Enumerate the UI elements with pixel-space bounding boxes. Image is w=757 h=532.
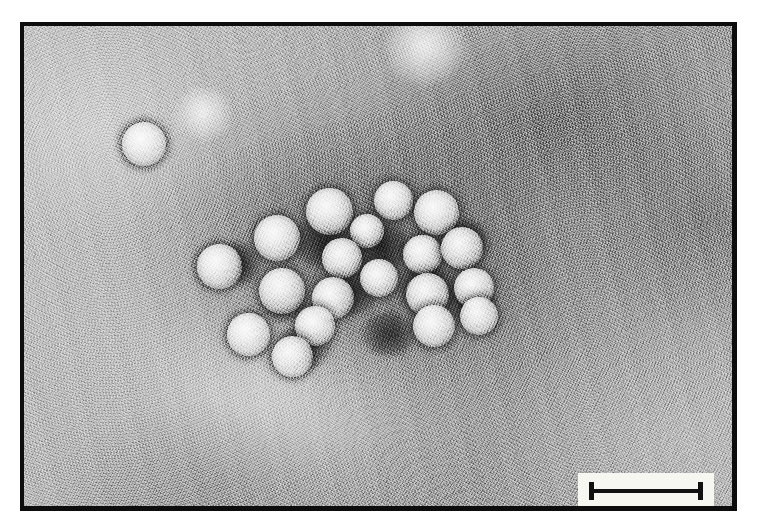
figure-page (0, 0, 757, 532)
micrograph-frame (20, 22, 737, 511)
micrograph-field (24, 26, 732, 506)
film-grain-overlay-secondary (24, 26, 732, 506)
scale-bar (578, 473, 714, 506)
scale-bar-rule (590, 489, 703, 493)
scale-bar-right-cap (698, 482, 703, 500)
